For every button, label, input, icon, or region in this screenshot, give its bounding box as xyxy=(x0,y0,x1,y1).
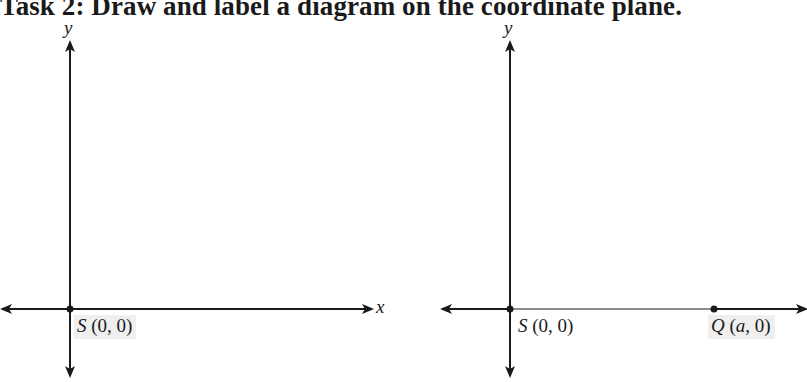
right-point-q-label: Q (a, 0) xyxy=(708,315,775,339)
left-plane xyxy=(2,42,372,376)
right-point-s-label: S (0, 0) xyxy=(518,315,573,337)
right-y-axis-label: y xyxy=(504,17,512,39)
left-x-axis-label: x xyxy=(376,296,384,318)
left-y-axis-label: y xyxy=(64,17,72,39)
point-s-right xyxy=(507,306,514,313)
point-s-left xyxy=(67,306,74,313)
point-q xyxy=(711,306,718,313)
left-point-s-label: S (0, 0) xyxy=(74,315,136,339)
